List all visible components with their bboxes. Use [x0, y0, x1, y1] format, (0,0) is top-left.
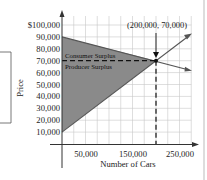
x-tick: 50,000 — [74, 149, 98, 159]
y-tick: 60,000 — [36, 68, 60, 78]
consumer-surplus-label: Consumer Surplus — [65, 52, 116, 59]
y-tick: 50,000 — [36, 80, 60, 90]
x-axis-arrow-icon — [192, 142, 199, 147]
x-axis-label: Number of Cars — [100, 159, 156, 169]
x-tick: 250,000 — [166, 149, 194, 159]
pointer-arrow-icon — [153, 52, 159, 58]
producer-surplus-label: Producer Surplus — [65, 63, 112, 70]
equilibrium-point — [154, 59, 158, 63]
y-tick: 20,000 — [36, 115, 60, 125]
equilibrium-label: (200,000, 70,000) — [127, 21, 187, 30]
x-tick: 150,000 — [119, 149, 147, 159]
y-axis-label: Price — [15, 79, 25, 97]
y-tick: 40,000 — [36, 91, 60, 101]
y-tick: $100,000 — [28, 20, 60, 30]
demand-arrow-icon — [185, 67, 193, 72]
y-tick: 30,000 — [36, 103, 60, 113]
y-tick: 80,000 — [36, 44, 60, 54]
y-tick: 90,000 — [36, 32, 60, 42]
chart: $100,000 90,000 80,000 70,000 60,000 50,… — [0, 0, 207, 180]
left-bracket — [0, 52, 11, 123]
y-tick: 70,000 — [36, 56, 60, 66]
y-axis-arrow-icon — [60, 10, 65, 17]
y-tick: 10,000 — [36, 127, 60, 137]
